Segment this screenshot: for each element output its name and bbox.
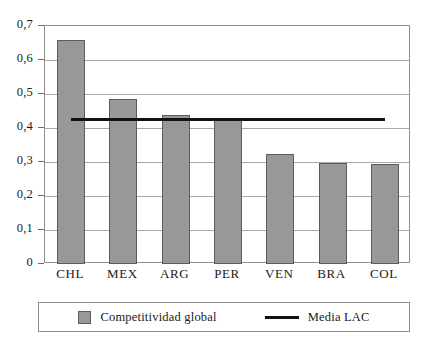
x-axis-tick-label-chl: CHL: [44, 266, 96, 282]
legend-label: Media LAC: [308, 310, 370, 325]
y-axis-tick-mark: [38, 263, 44, 264]
bar-chl: [57, 40, 85, 264]
bar-mex: [109, 99, 137, 264]
legend-entry-1: Competitividad global: [78, 310, 216, 325]
chart-legend: Competitividad globalMedia LAC: [38, 302, 410, 332]
bar-col: [371, 164, 399, 264]
plot-area: [44, 25, 410, 263]
x-axis-tick-label-bra: BRA: [305, 266, 357, 282]
y-axis-tick-label: 0,5: [0, 85, 38, 100]
bar-per: [214, 119, 242, 264]
legend-label: Competitividad global: [100, 310, 216, 325]
y-axis-tick-label: 0,4: [0, 119, 38, 134]
gridline: [45, 60, 409, 61]
y-axis-tick-label: 0,6: [0, 51, 38, 66]
legend-entry-2: Media LAC: [265, 310, 370, 325]
x-axis-tick-label-per: PER: [201, 266, 253, 282]
legend-entries: Competitividad globalMedia LAC: [39, 303, 409, 331]
line-marker-icon: [265, 316, 299, 319]
y-axis-tick-label: 0: [0, 255, 38, 270]
y-axis-tick-label: 0,3: [0, 153, 38, 168]
y-axis-tick-label: 0,1: [0, 221, 38, 236]
x-axis-tick-label-arg: ARG: [149, 266, 201, 282]
x-axis-tick-label-ven: VEN: [253, 266, 305, 282]
square-swatch-icon: [78, 311, 91, 324]
chart-figure: 0,70,60,50,40,30,20,10 CHLMEXARGPERVENBR…: [0, 0, 426, 346]
bar-arg: [162, 115, 190, 264]
y-axis-tick-label: 0,2: [0, 187, 38, 202]
gridline: [45, 94, 409, 95]
y-axis-tick-label: 0,7: [0, 17, 38, 32]
bar-ven: [266, 154, 294, 265]
y-axis: 0,70,60,50,40,30,20,10: [0, 25, 38, 263]
mean-line-media-lac: [71, 118, 385, 121]
x-axis: CHLMEXARGPERVENBRACOL: [44, 266, 410, 286]
x-axis-tick-label-mex: MEX: [96, 266, 148, 282]
x-axis-tick-label-col: COL: [358, 266, 410, 282]
bar-bra: [319, 163, 347, 264]
